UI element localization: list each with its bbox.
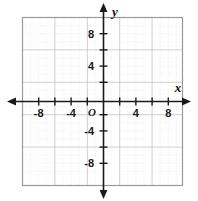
x-tick-label-pos-8: 8	[165, 107, 171, 119]
y-tick-label-pos-8: 8	[88, 28, 94, 40]
coordinate-grid-figure: -8 -4 4 8 8 4 -4 -8 O x y	[0, 0, 198, 201]
x-tick-label-neg-4: -4	[66, 107, 77, 119]
y-tick-label-pos-4: 4	[88, 60, 95, 72]
x-tick-label-pos-4: 4	[133, 107, 140, 119]
origin-label: O	[88, 106, 96, 118]
y-tick-label-neg-8: -8	[84, 157, 94, 169]
y-axis-label: y	[110, 4, 118, 19]
x-tick-label-neg-8: -8	[34, 107, 44, 119]
y-tick-label-neg-4: -4	[84, 125, 95, 137]
coordinate-plane-svg: -8 -4 4 8 8 4 -4 -8 O x y	[0, 0, 198, 201]
x-axis-label: x	[174, 80, 182, 95]
